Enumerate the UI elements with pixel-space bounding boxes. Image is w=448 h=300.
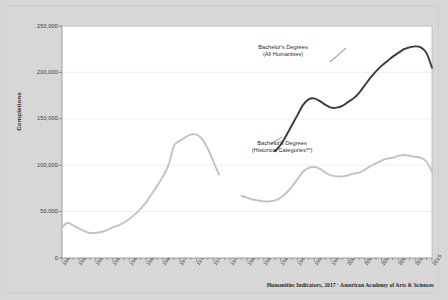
plot-canvas	[0, 0, 448, 300]
annotation-line-1: Bachelor's Degrees	[252, 140, 313, 147]
plot-background	[62, 26, 432, 258]
annotation-line-1: Bachelor's Degrees	[258, 44, 307, 51]
chart-figure: Completions 050,000100,000150,000200,000…	[0, 0, 448, 300]
annotation-line-2: (Historical Categories**)	[252, 147, 313, 154]
series-annotation-historical: Bachelor's Degrees (Historical Categorie…	[252, 140, 313, 155]
y-axis-tick-marks	[59, 26, 63, 258]
annotation-line-2: (All Humanities)	[258, 51, 307, 58]
source-note: Humanities Indicators, 2017 · American A…	[267, 282, 434, 288]
series-annotation-all-humanities: Bachelor's Degrees (All Humanities)	[258, 44, 307, 59]
x-axis-tick-marks	[62, 258, 432, 262]
